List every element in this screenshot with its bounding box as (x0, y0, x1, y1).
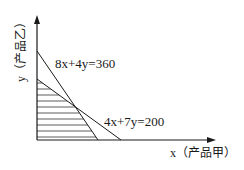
y-axis-label: y（产品乙） (14, 16, 28, 82)
x-axis-label: x（产品甲） (170, 146, 236, 160)
constraint-label-2: 4x+7y=200 (104, 114, 164, 129)
lp-diagram: 8x+4y=360 4x+7y=200 x（产品甲） y（产品乙） (0, 0, 244, 170)
x-axis-arrow-icon (207, 137, 216, 143)
constraint-label-1: 8x+4y=360 (55, 56, 115, 71)
y-axis-arrow-icon (34, 15, 40, 24)
